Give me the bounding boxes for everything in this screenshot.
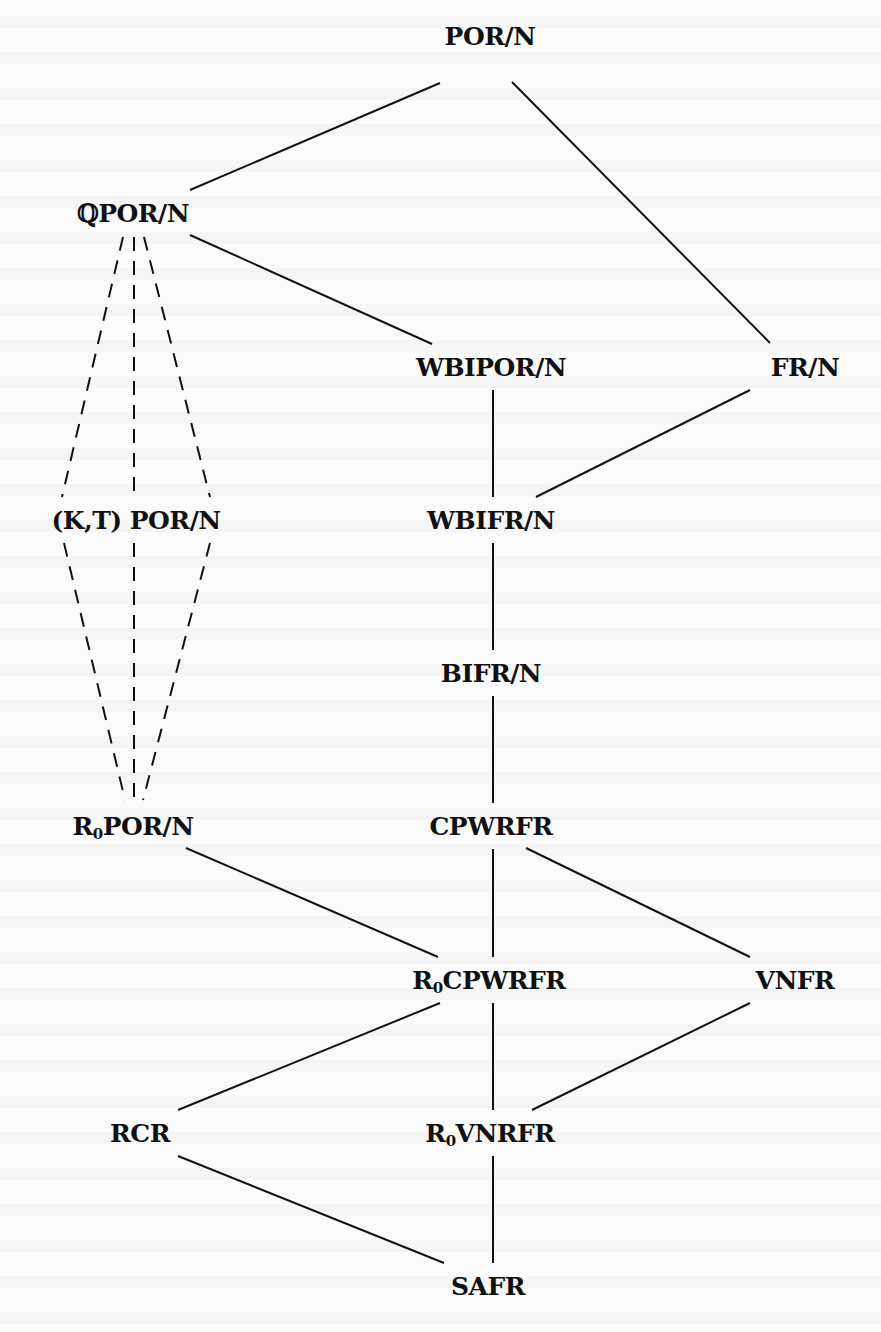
node-subscript: 0 (93, 825, 103, 843)
node-por-n[interactable]: POR/N (445, 24, 536, 49)
node-label: WBIPOR/N (416, 353, 566, 382)
node-label: VNRFR (456, 1119, 555, 1148)
node-label: POR/N (130, 506, 221, 535)
node-label: RCR (110, 1119, 170, 1148)
node-safr[interactable]: SAFR (451, 1274, 525, 1299)
node-label: VNFR (756, 966, 835, 995)
edge-r0por_n-to-r0cpwrfr (186, 848, 438, 957)
edge-rcr-to-safr (178, 1156, 444, 1263)
node-r0cpwrfr[interactable]: R0CPWRFR (412, 968, 565, 993)
edge-kt_por_n-to-r0por_n-dashed (64, 543, 125, 800)
edge-vnfr-to-r0vnrfr (532, 1003, 750, 1110)
edge-r0cpwrfr-to-rcr (178, 1003, 440, 1110)
node-prefix: ℚ (77, 199, 98, 228)
node-wbipor-n[interactable]: WBIPOR/N (416, 355, 566, 380)
node-bifr-n[interactable]: BIFR/N (441, 661, 541, 686)
node-vnfr[interactable]: VNFR (756, 968, 835, 993)
edge-fr_n-to-wbifr_n (536, 390, 750, 497)
node-fr-n[interactable]: FR/N (771, 355, 840, 380)
edge-qpor_n-to-kt_por_n-dashed (144, 237, 210, 497)
node-kt-por-n[interactable]: (K,T) POR/N (51, 508, 220, 533)
node-label: POR/N (103, 812, 194, 841)
edge-cpwrfr-to-vnfr (526, 848, 750, 957)
node-r0vnrfr[interactable]: R0VNRFR (425, 1121, 554, 1146)
node-label: WBIFR/N (427, 506, 555, 535)
edge-por_n-to-fr_n (512, 82, 770, 343)
node-prefix: R (425, 1119, 445, 1148)
node-rcr[interactable]: RCR (110, 1121, 170, 1146)
page-background: POR/NℚPOR/NWBIPOR/NFR/N(K,T) POR/NWBIFR/… (0, 0, 881, 1332)
edge-kt_por_n-to-r0por_n-dashed (143, 543, 210, 800)
node-subscript: 0 (433, 979, 443, 997)
edge-por_n-to-qpor_n (190, 83, 440, 190)
node-label: FR/N (771, 353, 840, 382)
node-cpwrfr[interactable]: CPWRFR (429, 814, 552, 839)
node-label: SAFR (451, 1272, 525, 1301)
node-label: CPWRFR (429, 812, 552, 841)
node-label: POR/N (445, 22, 536, 51)
node-prefix: R (72, 812, 92, 841)
node-r0por-n[interactable]: R0POR/N (72, 814, 193, 839)
node-subscript: 0 (446, 1132, 456, 1150)
edge-qpor_n-to-wbipor_n (190, 235, 432, 344)
node-prefix: R (412, 966, 432, 995)
node-wbifr-n[interactable]: WBIFR/N (427, 508, 555, 533)
node-qpor-n[interactable]: ℚPOR/N (77, 201, 189, 226)
edge-qpor_n-to-kt_por_n-dashed (62, 237, 123, 497)
node-label: POR/N (98, 199, 189, 228)
node-label: BIFR/N (441, 659, 541, 688)
node-prefix: (K,T) (51, 506, 129, 535)
node-label: CPWRFR (443, 966, 566, 995)
